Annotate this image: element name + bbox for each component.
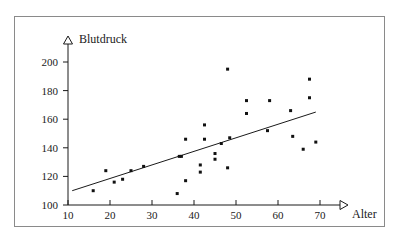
data-point (266, 129, 269, 132)
x-tick-label: 40 (189, 210, 200, 221)
x-tick-label: 30 (147, 210, 158, 221)
x-axis-title: Alter (352, 208, 377, 220)
x-tick-label: 10 (63, 210, 74, 221)
x-tick-label: 50 (231, 210, 242, 221)
y-axis-ticks (63, 62, 68, 205)
data-point (92, 189, 95, 192)
data-points-group (92, 68, 318, 195)
data-point (199, 171, 202, 174)
x-axis-arrow-icon (340, 201, 348, 210)
y-axis-title: Blutdruck (79, 33, 127, 45)
data-point (203, 138, 206, 141)
y-tick-label: 180 (30, 85, 58, 96)
regression-line-group (72, 112, 316, 191)
data-point (308, 96, 311, 99)
data-point (121, 178, 124, 181)
y-tick-label: 160 (30, 114, 58, 125)
data-point (113, 181, 116, 184)
data-point (214, 152, 217, 155)
data-point (142, 165, 145, 168)
data-point (184, 138, 187, 141)
figure-root: 10203040506070 100120140160180200 Blutdr… (0, 0, 399, 242)
x-tick-label: 70 (315, 210, 326, 221)
data-point (176, 192, 179, 195)
data-point (314, 141, 317, 144)
data-point (289, 109, 292, 112)
data-point (130, 169, 133, 172)
data-point (199, 163, 202, 166)
data-point (220, 142, 223, 145)
data-point (203, 123, 206, 126)
data-point (228, 136, 231, 139)
y-tick-label: 200 (30, 57, 58, 68)
x-tick-label: 20 (105, 210, 116, 221)
data-point (308, 78, 311, 81)
data-point (226, 166, 229, 169)
y-axis-arrow-icon (64, 36, 73, 44)
x-tick-label: 60 (273, 210, 284, 221)
data-point (268, 99, 271, 102)
data-point (226, 68, 229, 71)
data-point (245, 112, 248, 115)
data-point (302, 148, 305, 151)
y-tick-label: 100 (30, 200, 58, 211)
scatter-plot-canvas (0, 0, 399, 242)
regression-line (72, 112, 316, 191)
data-point (180, 155, 183, 158)
data-point (214, 158, 217, 161)
data-point (245, 99, 248, 102)
data-point (184, 179, 187, 182)
axes-group (64, 36, 349, 210)
y-tick-label: 120 (30, 171, 58, 182)
y-tick-label: 140 (30, 142, 58, 153)
x-axis-ticks (68, 200, 320, 205)
data-point (104, 169, 107, 172)
data-point (291, 135, 294, 138)
